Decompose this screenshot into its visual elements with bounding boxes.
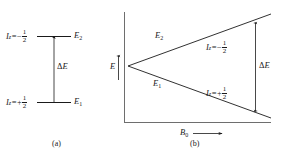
panel-b-y-axis-label: E [110, 62, 115, 71]
panel-a-lower-spin-label: Iz=+12 [6, 95, 27, 110]
fraction-denominator: 2 [22, 36, 28, 44]
energy-symbol: E [62, 61, 67, 71]
panel-a-upper-spin-label: Iz=−12 [6, 29, 27, 44]
panel-b-caption: (b) [190, 139, 199, 148]
branch-upper-line [128, 14, 271, 66]
panel-a-delta-e-label: ΔE [57, 62, 68, 71]
b-subscript: 0 [185, 132, 188, 138]
fraction-denominator: 2 [22, 102, 28, 110]
panel-b-delta-e-label: ΔE [259, 61, 270, 70]
panel-b-lower-spin-label: Iz=+12 [206, 86, 227, 101]
energy-subscript: 2 [79, 35, 82, 41]
figure-container: Iz=−12 E2 Iz=+12 E1 ΔE (a) E B0 E2 E1 Iz… [0, 0, 284, 162]
fraction-numerator: 1 [222, 40, 228, 47]
panel-b-upper-spin-label: Iz=−12 [206, 40, 227, 55]
panel-a-lower-energy-label: E1 [74, 97, 82, 107]
fraction-denominator: 2 [222, 93, 228, 101]
figure-linework [0, 0, 284, 162]
one-half-fraction: 12 [22, 29, 28, 44]
one-half-fraction: 12 [222, 40, 228, 55]
one-half-fraction: 12 [222, 86, 228, 101]
fraction-denominator: 2 [222, 47, 228, 55]
panel-a-upper-energy-label: E2 [74, 31, 82, 41]
panel-b-linework [119, 12, 272, 134]
fraction-numerator: 1 [22, 95, 28, 102]
one-half-fraction: 12 [22, 95, 28, 110]
panel-b-lower-branch-label: E1 [153, 79, 161, 89]
panel-b-upper-branch-label: E2 [155, 31, 163, 41]
panel-a-caption: (a) [52, 139, 61, 148]
energy-subscript: 1 [79, 101, 82, 107]
branch-lower-line [128, 66, 271, 118]
fraction-numerator: 1 [22, 29, 28, 36]
energy-subscript: 2 [160, 35, 163, 41]
panel-b-x-axis-label: B0 [180, 128, 188, 138]
fraction-numerator: 1 [222, 86, 228, 93]
energy-subscript: 1 [158, 83, 161, 89]
energy-symbol: E [264, 60, 269, 70]
